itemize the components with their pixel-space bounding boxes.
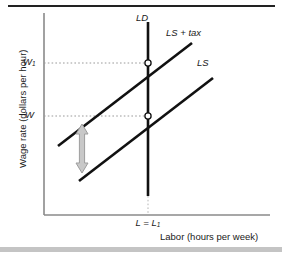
axes-group xyxy=(44,13,270,215)
x-axis-title: Labor (hours per week) xyxy=(160,232,258,242)
economics-figure: Wage rate (dollars per hour) Labor (hour… xyxy=(0,0,282,256)
curve-label-ls-plus-tax: LS + tax xyxy=(166,28,201,38)
equilibrium-marker-after-tax xyxy=(145,60,151,66)
curve-label-ld: LD xyxy=(136,13,148,23)
tax-wedge-arrow-icon xyxy=(76,124,88,173)
x-tick-l-equals: = xyxy=(141,217,152,228)
y-tick-label-w1: W1 xyxy=(23,57,36,68)
y-tick-w-base: W xyxy=(25,109,34,120)
x-tick-label-l: L = L1 xyxy=(120,218,176,229)
y-tick-label-w: W xyxy=(25,110,34,120)
bottom-band xyxy=(0,247,282,252)
y-tick-w1-subscript: 1 xyxy=(32,60,36,67)
x-tick-l1-subscript: 1 xyxy=(157,221,161,228)
equilibrium-marker-before-tax xyxy=(145,113,151,119)
curve-ls xyxy=(79,78,213,181)
y-tick-w1-base: W xyxy=(23,56,32,67)
curve-label-ls: LS xyxy=(197,58,209,68)
